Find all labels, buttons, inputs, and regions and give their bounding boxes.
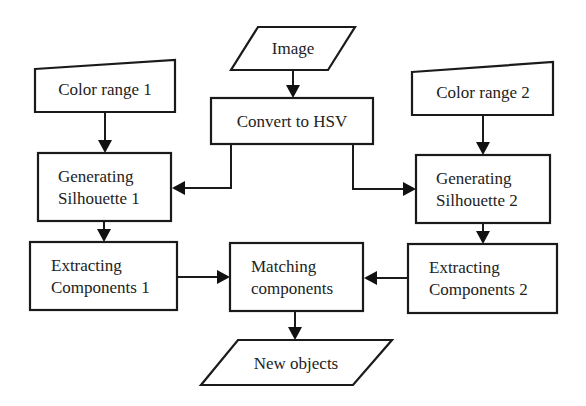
node-color-range-1: Color range 1 [35, 60, 175, 112]
node-extracting-components-1: Extracting Components 1 [30, 242, 177, 310]
node-matching-components: Matching components [230, 243, 363, 311]
node-convert-to-hsv: Convert to HSV [211, 98, 373, 144]
node-label: Convert to HSV [237, 112, 348, 131]
arrowhead-icon [476, 142, 490, 155]
arrowhead-icon [364, 271, 377, 285]
arrowhead-icon [98, 140, 112, 153]
node-image: Image [231, 27, 355, 70]
node-label-line-1: Extracting [51, 256, 122, 275]
edge-convert-to-silhouette-1 [184, 144, 231, 188]
arrowhead-icon [97, 229, 111, 242]
rect-shape [30, 242, 177, 310]
edge-convert-to-silhouette-2 [353, 144, 404, 189]
node-new-objects: New objects [201, 340, 392, 385]
node-label: Image [272, 39, 314, 58]
node-generating-silhouette-1: Generating Silhouette 1 [38, 153, 171, 221]
rect-shape [408, 244, 557, 313]
node-label: Color range 1 [58, 80, 151, 99]
node-label: New objects [254, 354, 339, 373]
node-label-line-2: Components 2 [429, 280, 528, 299]
node-generating-silhouette-2: Generating Silhouette 2 [416, 155, 550, 223]
arrowhead-icon [217, 270, 230, 284]
node-label-line-2: Silhouette 1 [58, 189, 140, 208]
node-label-line-1: Extracting [429, 258, 500, 277]
arrowhead-icon [286, 85, 300, 98]
node-color-range-2: Color range 2 [412, 62, 553, 115]
arrowhead-icon [403, 182, 416, 196]
rect-shape [416, 155, 550, 223]
node-label-line-2: Components 1 [51, 278, 150, 297]
rect-shape [38, 153, 171, 221]
rect-shape [230, 243, 363, 311]
node-label-line-1: Generating [436, 169, 512, 188]
node-extracting-components-2: Extracting Components 2 [408, 244, 557, 313]
arrowhead-icon [476, 231, 490, 244]
node-label-line-2: Silhouette 2 [436, 191, 518, 210]
node-label: Color range 2 [436, 83, 529, 102]
arrowhead-icon [172, 181, 185, 195]
node-label-line-2: components [251, 279, 333, 298]
node-label-line-1: Generating [58, 167, 134, 186]
node-label-line-1: Matching [251, 257, 317, 276]
flowchart: Image Convert to HSV Color range 1 Color… [0, 0, 586, 406]
arrowhead-icon [288, 327, 302, 340]
